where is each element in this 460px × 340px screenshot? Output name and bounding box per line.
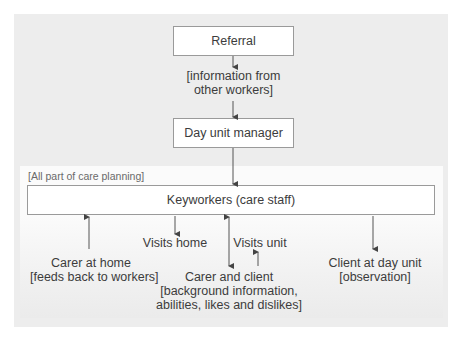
connector-arrows: [0, 0, 460, 340]
